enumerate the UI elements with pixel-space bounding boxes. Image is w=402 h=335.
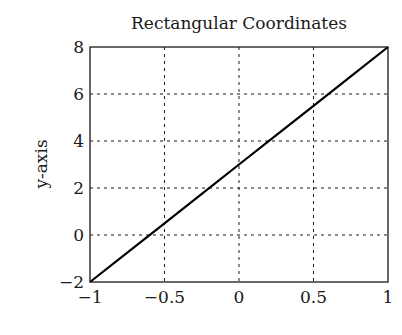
x-tick-label: 1 [383,287,394,307]
y-tick-label: 0 [73,225,84,245]
y-tick-label: 2 [73,178,84,198]
y-tick-labels: −202468 [59,37,84,292]
y-tick-label: 4 [73,131,84,151]
x-tick-labels: −1−0.500.51 [77,287,393,307]
x-tick-label: −1 [77,287,102,307]
chart-title: Rectangular Coordinates [131,13,347,33]
y-axis-label: y-axis [31,139,51,189]
y-tick-label: 6 [73,84,84,104]
x-tick-label: 0.5 [300,287,327,307]
chart: Rectangular Coordinates −202468 −1−0.500… [0,0,402,335]
x-tick-label: 0 [234,287,245,307]
y-tick-label: 8 [73,37,84,57]
x-tick-label: −0.5 [144,287,185,307]
